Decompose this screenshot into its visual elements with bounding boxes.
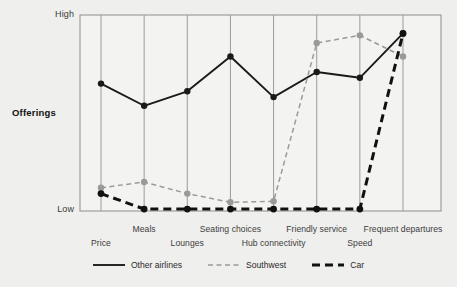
data-point-car-1 — [141, 206, 148, 213]
category-label-frequent-departures: Frequent departures — [364, 224, 443, 234]
legend-label-southwest: Southwest — [246, 260, 286, 270]
solid-line-icon — [93, 261, 125, 269]
strategy-canvas-chart: Offerings High Low PriceMealsLoungesSeat… — [0, 0, 457, 287]
data-point-car-3 — [227, 206, 234, 213]
category-label-hub-connectivity: Hub connectivity — [242, 238, 306, 248]
legend-item-southwest[interactable]: Southwest — [208, 260, 286, 270]
category-label-speed: Speed — [347, 238, 372, 248]
data-point-other-airlines-2 — [184, 88, 190, 94]
data-point-other-airlines-5 — [314, 69, 320, 75]
legend-item-car[interactable]: Car — [312, 260, 364, 270]
plot-background — [80, 15, 441, 211]
category-label-price: Price — [91, 238, 111, 248]
data-point-southwest-7 — [400, 53, 406, 59]
data-point-southwest-5 — [314, 40, 320, 46]
data-point-other-airlines-1 — [141, 103, 147, 109]
category-label-meals: Meals — [133, 224, 156, 234]
chart-legend: Other airlinesSouthwestCar — [0, 260, 457, 270]
data-point-southwest-3 — [227, 199, 233, 205]
data-point-southwest-1 — [141, 179, 147, 185]
data-point-car-0 — [98, 190, 105, 197]
legend-label-other-airlines: Other airlines — [131, 260, 182, 270]
data-point-other-airlines-0 — [98, 80, 104, 86]
dashed-line-icon — [208, 261, 240, 269]
data-point-car-6 — [356, 206, 363, 213]
category-label-lounges: Lounges — [171, 238, 204, 248]
data-point-car-7 — [400, 30, 407, 37]
data-point-car-4 — [270, 206, 277, 213]
y-axis-low-tick-label: Low — [40, 204, 74, 214]
legend-label-car: Car — [350, 260, 364, 270]
data-point-other-airlines-3 — [227, 53, 233, 59]
data-point-car-5 — [313, 206, 320, 213]
data-point-southwest-4 — [270, 198, 276, 204]
data-point-southwest-6 — [357, 32, 363, 38]
thick-dashed-line-icon — [312, 261, 344, 269]
y-axis-high-tick-label: High — [44, 9, 74, 19]
data-point-southwest-0 — [98, 185, 104, 191]
category-label-friendly-service: Friendly service — [286, 224, 347, 234]
plot-area — [0, 0, 457, 287]
data-point-car-2 — [184, 206, 191, 213]
category-label-seating-choices: Seating choices — [200, 224, 261, 234]
data-point-southwest-2 — [184, 190, 190, 196]
data-point-other-airlines-6 — [357, 75, 363, 81]
data-point-other-airlines-4 — [270, 94, 276, 100]
y-axis-title: Offerings — [12, 107, 56, 118]
legend-item-other-airlines[interactable]: Other airlines — [93, 260, 182, 270]
